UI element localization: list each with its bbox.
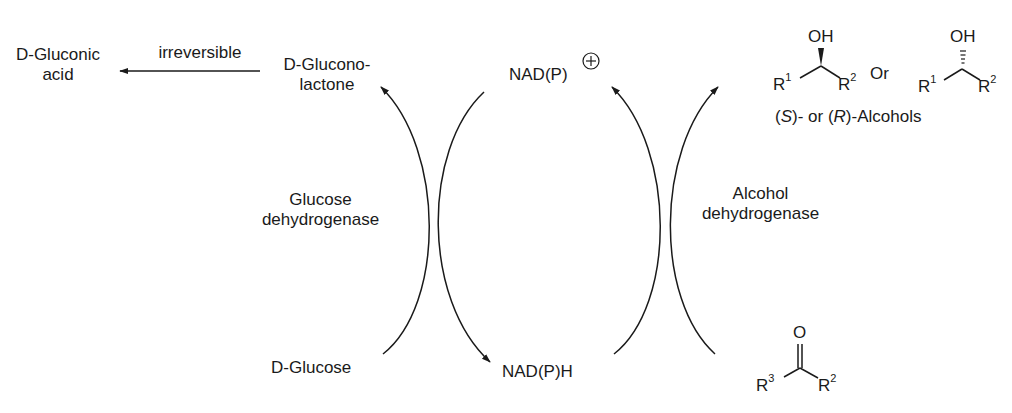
irreversible-label: irreversible <box>145 43 255 63</box>
s-alcohol-r1: R1 <box>773 75 791 95</box>
ketone-r2: R2 <box>818 376 836 396</box>
circled-plus-icon <box>583 53 599 69</box>
r-index: 1 <box>785 71 791 83</box>
r-label: R <box>978 77 990 96</box>
gluconolactone-line1: D-Glucono- <box>272 55 382 75</box>
wedge-bond-icon <box>818 48 824 66</box>
gluconic-acid-line1: D-Gluconic <box>8 45 108 65</box>
ketone-r3: R3 <box>756 376 774 396</box>
hashed-bond-icon <box>960 51 966 63</box>
caption-end: )-Alcohols <box>846 107 922 126</box>
gluconic-acid-label: D-Gluconic acid <box>8 45 108 85</box>
glucose-dehydrogenase-label: Glucose dehydrogenase <box>258 190 383 230</box>
s-alcohol-oh: OH <box>808 27 834 47</box>
glucose-dehydrogenase-line2: dehydrogenase <box>258 210 383 230</box>
glucose-dehydrogenase-line1: Glucose <box>258 190 383 210</box>
r-alcohol-oh: OH <box>950 27 976 47</box>
r-index: 1 <box>930 73 936 85</box>
gluconolactone-label: D-Glucono- lactone <box>272 55 382 95</box>
gluconolactone-line2: lactone <box>272 75 382 95</box>
alcohol-dehydrogenase-line1: Alcohol <box>698 184 823 204</box>
alcohol-dehydrogenase-line2: dehydrogenase <box>698 204 823 224</box>
nadph-label: NAD(P)H <box>502 362 573 382</box>
nadph-oxidation-arc <box>612 87 660 354</box>
caption-r: R <box>834 107 846 126</box>
r-label: R <box>918 77 930 96</box>
r-index: 2 <box>830 372 836 384</box>
r-index: 2 <box>850 71 856 83</box>
caption-s: S <box>781 107 792 126</box>
or-label: Or <box>870 64 889 84</box>
nadp-reduction-arc <box>438 92 490 362</box>
r-index: 3 <box>768 372 774 384</box>
glucose-to-lactone-arc <box>381 87 429 354</box>
r-label: R <box>773 75 785 94</box>
r-alcohol-r2: R2 <box>978 77 996 97</box>
ketone-oxygen: O <box>793 323 806 343</box>
r-alcohol-r1: R1 <box>918 77 936 97</box>
r-label: R <box>838 75 850 94</box>
r-label: R <box>818 376 830 395</box>
d-glucose-label: D-Glucose <box>271 358 351 378</box>
gluconic-acid-line2: acid <box>8 65 108 85</box>
r-label: R <box>756 376 768 395</box>
caption-mid: )- or ( <box>792 107 834 126</box>
alcohols-caption: (S)- or (R)-Alcohols <box>775 107 921 127</box>
nadp-oxidized-label: NAD(P) <box>509 65 568 85</box>
s-alcohol-r2: R2 <box>838 75 856 95</box>
alcohol-dehydrogenase-label: Alcohol dehydrogenase <box>698 184 823 224</box>
r-index: 2 <box>990 73 996 85</box>
